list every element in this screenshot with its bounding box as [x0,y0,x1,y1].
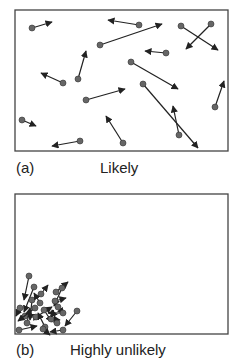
particle-icon [38,291,44,297]
particle-icon [41,307,47,313]
particle-icon [60,327,66,333]
particle-icon [16,327,22,333]
particle-icon [37,300,43,306]
particle-icon [60,310,66,316]
velocity-arrow-icon [86,89,125,100]
particle-icon [77,138,83,144]
particle-icon [33,314,39,320]
panel-a-tag: (a) [16,159,34,176]
container-box [15,194,228,334]
particle-icon [40,326,46,332]
velocity-arrow-icon [41,73,63,83]
particle-icon [19,117,25,123]
particle-icon [53,289,59,295]
particle-icon [208,21,214,27]
panel-b-caption: Highly unlikely [70,341,166,358]
particle-icon [83,97,89,103]
particle-icon [59,285,65,291]
velocity-arrow-icon [131,62,178,89]
panel-highly-unlikely [15,194,228,335]
velocity-arrow-icon [78,51,86,79]
particle-icon [97,42,103,48]
particle-icon [29,297,35,303]
particle-icon [178,23,184,29]
panel-a-caption: Likely [100,159,138,176]
particle-icon [60,80,66,86]
particle-icon [212,104,218,110]
velocity-arrow-icon [186,24,211,49]
particle-icon [31,284,37,290]
velocity-arrow-icon [52,141,80,146]
velocity-arrow-icon [106,116,123,143]
velocity-arrow-icon [143,84,198,148]
velocity-arrow-icon [215,81,224,107]
particle-icon [24,320,30,326]
particle-icon [74,308,80,314]
velocity-arrow-icon [100,24,162,45]
velocity-arrow-icon [181,26,218,50]
panel-b-tag: (b) [16,341,34,358]
particle-icon [163,50,169,56]
particle-icon [54,320,60,326]
particle-icon [26,273,32,279]
particle-icon [75,76,81,82]
particle-icon [120,140,126,146]
particle-icon [176,132,182,138]
particle-icon [29,25,35,31]
container-box [15,10,228,151]
velocity-arrow-icon [108,20,139,25]
particle-icon [17,305,23,311]
panel-likely [15,10,228,151]
diagram-canvas [0,0,236,359]
particle-icon [140,81,146,87]
velocity-arrow-icon [24,276,29,300]
particle-icon [48,316,54,322]
particle-icon [136,22,142,28]
particle-icon [52,298,58,304]
particle-icon [55,304,61,310]
particle-icon [32,305,38,311]
particle-icon [128,59,134,65]
